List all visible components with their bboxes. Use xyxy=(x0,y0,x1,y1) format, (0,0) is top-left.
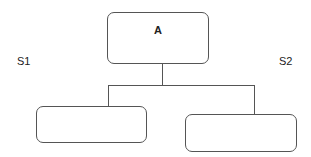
right-child-node-box xyxy=(185,114,297,152)
side-label-s2: S2 xyxy=(279,56,292,67)
root-connector-line xyxy=(162,64,163,86)
root-node-box: A xyxy=(107,12,209,64)
left-child-node-box xyxy=(36,106,147,143)
right-branch-line xyxy=(254,85,255,114)
left-branch-line xyxy=(108,85,109,106)
branch-horizontal-line xyxy=(108,85,255,86)
root-node-label: A xyxy=(108,25,208,36)
side-label-s1: S1 xyxy=(17,56,30,67)
